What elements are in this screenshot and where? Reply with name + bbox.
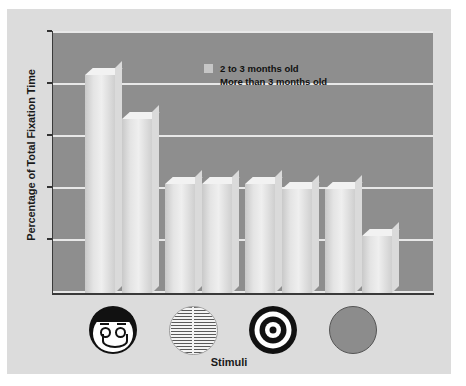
bar-face-fill <box>202 184 232 293</box>
bar-side-bevel <box>232 170 239 293</box>
x-category-plain-circle <box>329 306 379 356</box>
bar-plain-circle-series-1 <box>325 189 355 293</box>
bar-face-fill <box>325 189 355 293</box>
bar-side-bevel <box>355 175 362 293</box>
legend-label-series-1: 2 to 3 months old <box>220 62 299 75</box>
bar-side-bevel <box>195 170 202 293</box>
bar-bullseye-series-1 <box>245 184 275 293</box>
bar-face-series-1 <box>85 75 115 293</box>
series-2-swatch <box>204 77 213 86</box>
bar-face-fill <box>362 236 392 293</box>
y-tick-mark-50 <box>47 30 52 32</box>
x-axis-title: Stimuli <box>7 356 451 368</box>
y-axis-title: Percentage of Total Fixation Time <box>25 45 37 265</box>
gridline-50: 50 <box>53 31 433 33</box>
bar-face-series-2 <box>122 119 152 293</box>
bar-plain-circle-series-2 <box>362 236 392 293</box>
y-tick-mark-40 <box>47 82 52 84</box>
x-category-bullseye <box>249 306 299 356</box>
bar-side-bevel <box>392 222 399 293</box>
bar-newsprint-series-2 <box>202 184 232 293</box>
y-tick-mark-30 <box>47 134 52 136</box>
x-category-newsprint <box>169 306 219 356</box>
bar-side-bevel <box>152 105 159 293</box>
bar-side-bevel <box>312 175 319 293</box>
bar-side-bevel <box>115 61 122 293</box>
bar-face-fill <box>282 189 312 293</box>
smiley-face-icon <box>89 306 137 354</box>
bar-face-fill <box>122 119 152 293</box>
bar-bullseye-series-2 <box>282 189 312 293</box>
series-1-swatch <box>204 64 213 73</box>
legend-entry-series-1: 2 to 3 months old <box>204 62 327 75</box>
x-category-face <box>89 306 139 356</box>
chart-legend: 2 to 3 months old More than 3 months old <box>204 62 327 88</box>
legend-label-series-2: More than 3 months old <box>220 75 327 88</box>
legend-entry-series-2: More than 3 months old <box>204 75 327 88</box>
bar-newsprint-series-1 <box>165 184 195 293</box>
bar-face-fill <box>245 184 275 293</box>
bar-face-fill <box>85 75 115 293</box>
bullseye-target-icon <box>249 306 297 354</box>
x-axis-line <box>52 293 434 295</box>
y-tick-mark-10 <box>47 238 52 240</box>
plain-circle-icon <box>329 306 377 354</box>
bar-face-fill <box>165 184 195 293</box>
newsprint-circle-icon <box>169 306 218 355</box>
plot-area: 0 10 20 30 40 50 <box>53 31 433 293</box>
chart-figure: Percentage of Total Fixation Time Stimul… <box>7 9 451 374</box>
y-tick-mark-20 <box>47 186 52 188</box>
